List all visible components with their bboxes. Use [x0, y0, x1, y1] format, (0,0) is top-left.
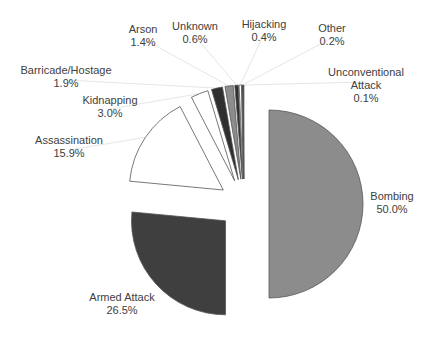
label-unconventional-attack: UnconventionalAttack0.1%	[328, 66, 404, 105]
label-bombing: Bombing50.0%	[370, 190, 413, 216]
label-hijacking: Hijacking0.4%	[242, 18, 287, 44]
pie-chart	[0, 0, 434, 339]
label-other: Other0.2%	[318, 22, 346, 48]
pie-slices	[130, 85, 363, 315]
label-kidnapping: Kidnapping3.0%	[82, 94, 137, 120]
label-assassination: Assassination15.9%	[35, 134, 103, 160]
label-arson: Arson1.4%	[129, 23, 158, 49]
slice-bombing	[269, 110, 363, 298]
label-barricade-hostage: Barricade/Hostage1.9%	[20, 64, 111, 90]
label-unknown: Unknown0.6%	[172, 20, 218, 46]
label-armed-attack: Armed Attack26.5%	[89, 291, 154, 317]
